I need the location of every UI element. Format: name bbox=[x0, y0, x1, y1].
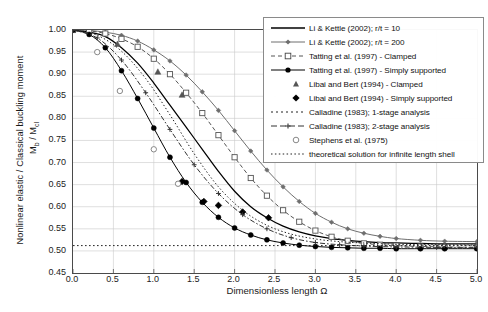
legend-label: Li & Kettle (2002); r/t = 200 bbox=[309, 38, 405, 47]
data-point bbox=[248, 233, 253, 238]
y-tick-label: 0.55 bbox=[32, 223, 66, 233]
series-4 bbox=[114, 41, 185, 97]
legend-symbol-circle-open bbox=[267, 133, 309, 147]
data-point bbox=[175, 181, 180, 186]
data-point bbox=[281, 240, 286, 245]
legend-symbol-solid-line bbox=[267, 21, 309, 35]
legend-item[interactable]: Stephens et al. (1975) bbox=[264, 133, 483, 147]
data-point bbox=[167, 155, 172, 160]
legend-swatch bbox=[267, 133, 309, 147]
data-point bbox=[313, 228, 318, 233]
chart-figure: Nonlinear elastic / Classical buckling m… bbox=[0, 0, 488, 312]
legend-label: Tatting et al. (1997) - Simply supported bbox=[309, 66, 446, 75]
legend-item[interactable]: Tatting et al. (1997) - Simply supported bbox=[264, 63, 483, 77]
data-point bbox=[378, 234, 383, 239]
legend-symbol-diamond-filled bbox=[267, 91, 309, 105]
legend-symbol-triangle-filled bbox=[267, 77, 309, 91]
x-tick-label: 2.5 bbox=[254, 274, 294, 284]
y-tick-label: 0.85 bbox=[32, 90, 66, 100]
legend-item[interactable]: Li & Kettle (2002); r/t = 10 bbox=[264, 21, 483, 35]
data-point bbox=[135, 44, 140, 49]
legend-swatch bbox=[267, 35, 309, 49]
data-point bbox=[216, 133, 221, 138]
data-point bbox=[117, 88, 122, 93]
legend-item[interactable]: theoretical solution for infinite length… bbox=[264, 147, 483, 161]
data-point bbox=[155, 69, 161, 75]
data-point bbox=[264, 193, 269, 198]
y-tick-label: 0.65 bbox=[32, 179, 66, 189]
data-point bbox=[297, 219, 302, 224]
y-tick-label: 0.60 bbox=[32, 201, 66, 211]
x-tick-label: 0.0 bbox=[52, 274, 92, 284]
x-tick-label: 5.0 bbox=[456, 274, 488, 284]
data-point bbox=[200, 110, 205, 115]
legend-swatch bbox=[267, 63, 309, 77]
legend-label: Tatting et al. (1997) - Clamped bbox=[309, 52, 416, 61]
legend-swatch bbox=[267, 91, 309, 105]
legend-label: Calladine (1983); 2-stage analysis bbox=[309, 122, 430, 131]
legend-label: Libai and Bert (1994) - Simply supported bbox=[309, 94, 452, 103]
y-tick-label: 0.50 bbox=[32, 245, 66, 255]
data-point bbox=[184, 90, 189, 95]
data-point bbox=[103, 31, 108, 36]
x-tick-label: 4.5 bbox=[416, 274, 456, 284]
legend-symbol-dash-plus bbox=[267, 119, 309, 133]
y-axis-title: Nonlinear elastic / Classical buckling m… bbox=[15, 25, 25, 275]
data-point bbox=[280, 208, 285, 213]
data-point bbox=[215, 202, 222, 209]
data-point bbox=[337, 242, 342, 247]
y-tick-label: 0.90 bbox=[32, 68, 66, 78]
legend-label: theoretical solution for infinite length… bbox=[309, 150, 455, 159]
data-point bbox=[95, 36, 100, 41]
data-point bbox=[135, 39, 140, 44]
data-point bbox=[232, 155, 237, 160]
legend-item[interactable]: Tatting et al. (1997) - Clamped bbox=[264, 49, 483, 63]
legend-symbol-fine-dotted bbox=[267, 105, 309, 119]
legend-item[interactable]: Calladine (1983); 2-stage analysis bbox=[264, 119, 483, 133]
data-point bbox=[394, 236, 399, 241]
legend-item[interactable]: Libai and Bert (1994) - Clamped bbox=[264, 77, 483, 91]
x-tick-label: 3.5 bbox=[335, 274, 375, 284]
legend-label: Stephens et al. (1975) bbox=[309, 136, 388, 145]
legend-item[interactable]: Calladine (1983); 1-stage analysis bbox=[264, 105, 483, 119]
x-tick-label: 1.5 bbox=[173, 274, 213, 284]
x-tick-label: 1.0 bbox=[133, 274, 173, 284]
y-tick-label: 0.75 bbox=[32, 134, 66, 144]
legend-swatch bbox=[267, 77, 309, 91]
legend-swatch bbox=[267, 21, 309, 35]
data-point bbox=[248, 175, 253, 180]
data-point bbox=[151, 56, 156, 61]
data-point bbox=[329, 220, 334, 225]
legend-label: Libai and Bert (1994) - Clamped bbox=[309, 80, 423, 89]
x-tick-label: 4.0 bbox=[375, 274, 415, 284]
data-point bbox=[216, 215, 221, 220]
data-point bbox=[103, 45, 108, 50]
data-point bbox=[119, 68, 124, 73]
series-8 bbox=[95, 49, 181, 186]
legend-symbol-dotted bbox=[267, 147, 309, 161]
data-point bbox=[95, 49, 100, 54]
data-point bbox=[232, 225, 237, 230]
legend-label: Li & Kettle (2002); r/t = 10 bbox=[309, 24, 400, 33]
x-tick-label: 2.0 bbox=[214, 274, 254, 284]
legend-symbol-line-diamond bbox=[267, 35, 309, 49]
legend-item[interactable]: Libai and Bert (1994) - Simply supported bbox=[264, 91, 483, 105]
data-point bbox=[119, 36, 124, 41]
chart-legend: Li & Kettle (2002); r/t = 10Li & Kettle … bbox=[263, 17, 484, 163]
legend-swatch bbox=[267, 119, 309, 133]
data-point bbox=[151, 126, 156, 131]
data-point bbox=[151, 147, 156, 152]
y-tick-label: 0.80 bbox=[32, 112, 66, 122]
legend-item[interactable]: Li & Kettle (2002); r/t = 200 bbox=[264, 35, 483, 49]
data-point bbox=[265, 226, 270, 231]
data-point bbox=[442, 239, 447, 244]
legend-label: Calladine (1983); 1-stage analysis bbox=[309, 108, 430, 117]
legend-symbol-line-circle-filled bbox=[267, 63, 309, 77]
y-tick-label: 1.00 bbox=[32, 24, 66, 34]
legend-symbol-dash-square-open bbox=[267, 49, 309, 63]
data-point bbox=[289, 235, 294, 240]
data-point bbox=[418, 238, 423, 243]
legend-swatch bbox=[267, 105, 309, 119]
data-point bbox=[135, 96, 140, 101]
y-axis-tick-labels: 1.000.950.900.850.800.750.700.650.600.55… bbox=[30, 0, 66, 312]
